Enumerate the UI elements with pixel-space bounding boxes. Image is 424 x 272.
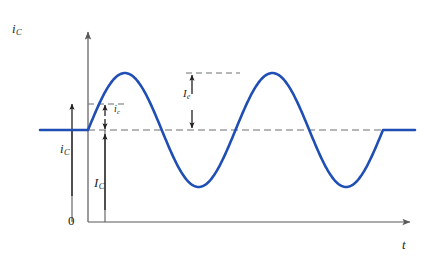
waveform-plot [0,0,424,272]
dc-current-label: IC [94,176,104,189]
origin-label: 0 [68,214,75,227]
y-axis-label: iC [12,22,21,35]
x-axis-label: t [402,238,406,251]
ac-current-label: ic [114,104,120,114]
total-current-label: iC [60,142,69,155]
axis-group [88,32,410,222]
ac-amplitude-label: Ie [183,88,190,99]
figure-container: iC 0 t iC IC ic Ie [0,0,424,272]
